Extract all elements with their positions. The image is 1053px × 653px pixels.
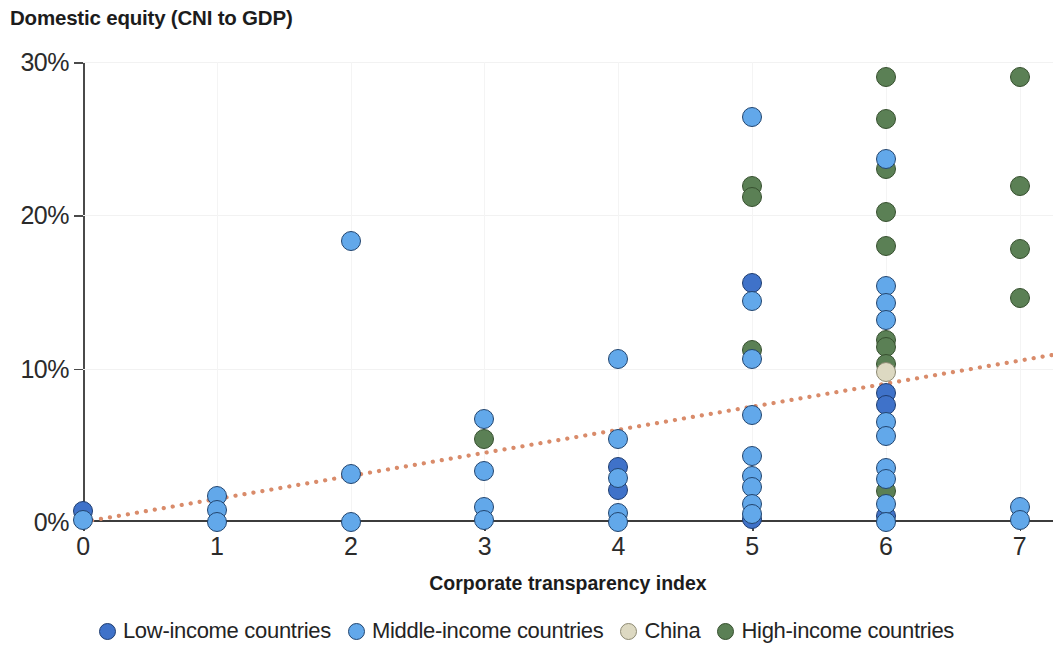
gridline-vertical bbox=[618, 62, 619, 522]
y-axis-line bbox=[83, 62, 85, 522]
legend-item-low[interactable]: Low-income countries bbox=[99, 618, 331, 644]
data-point bbox=[876, 67, 896, 87]
gridline-vertical bbox=[484, 62, 485, 522]
data-point bbox=[608, 468, 628, 488]
y-axis-tick bbox=[74, 369, 83, 371]
data-point bbox=[474, 409, 494, 429]
plot-area: 0%10%20%30%01234567 bbox=[83, 62, 1053, 522]
trend-line bbox=[83, 62, 1053, 522]
data-point bbox=[876, 469, 896, 489]
data-point bbox=[1010, 176, 1030, 196]
data-point bbox=[608, 349, 628, 369]
x-axis-label: 6 bbox=[879, 532, 892, 561]
data-point bbox=[876, 494, 896, 514]
legend-marker-icon bbox=[99, 623, 116, 640]
legend-label: China bbox=[644, 618, 700, 644]
data-point bbox=[742, 187, 762, 207]
y-axis-label: 20% bbox=[20, 201, 69, 230]
data-point bbox=[1010, 510, 1030, 530]
data-point bbox=[341, 464, 361, 484]
x-axis-label: 3 bbox=[478, 532, 491, 561]
data-point bbox=[876, 426, 896, 446]
legend-label: Middle-income countries bbox=[372, 618, 604, 644]
data-point bbox=[876, 362, 896, 382]
legend-item-middle[interactable]: Middle-income countries bbox=[348, 618, 604, 644]
x-axis-label: 0 bbox=[76, 532, 89, 561]
data-point bbox=[742, 273, 762, 293]
y-axis-tick bbox=[74, 62, 83, 64]
data-point bbox=[73, 510, 93, 530]
data-point bbox=[876, 109, 896, 129]
legend-marker-icon bbox=[348, 623, 365, 640]
y-axis-label: 30% bbox=[20, 48, 69, 77]
data-point bbox=[876, 310, 896, 330]
legend-label: High-income countries bbox=[741, 618, 954, 644]
data-point bbox=[474, 510, 494, 530]
chart-legend: Low-income countriesMiddle-income countr… bbox=[0, 618, 1053, 644]
data-point bbox=[876, 236, 896, 256]
x-axis-title: Corporate transparency index bbox=[83, 572, 1053, 595]
gridline-vertical bbox=[217, 62, 218, 522]
data-point bbox=[876, 202, 896, 222]
scatter-chart: Domestic equity (CNI to GDP) 0%10%20%30%… bbox=[0, 0, 1053, 653]
legend-marker-icon bbox=[620, 623, 637, 640]
data-point bbox=[1010, 239, 1030, 259]
data-point bbox=[876, 512, 896, 532]
data-point bbox=[341, 512, 361, 532]
data-point bbox=[742, 446, 762, 466]
x-axis-label: 5 bbox=[745, 532, 758, 561]
gridline-horizontal bbox=[83, 62, 1053, 63]
legend-label: Low-income countries bbox=[123, 618, 331, 644]
data-point bbox=[474, 461, 494, 481]
y-axis-tick bbox=[74, 215, 83, 217]
data-point bbox=[742, 349, 762, 369]
x-axis-label: 2 bbox=[344, 532, 357, 561]
x-axis-label: 1 bbox=[210, 532, 223, 561]
data-point bbox=[341, 231, 361, 251]
data-point bbox=[207, 512, 227, 532]
legend-item-china[interactable]: China bbox=[620, 618, 700, 644]
x-axis-label: 4 bbox=[611, 532, 624, 561]
y-axis-label: 0% bbox=[34, 508, 69, 537]
chart-title: Domestic equity (CNI to GDP) bbox=[10, 6, 293, 30]
data-point bbox=[608, 429, 628, 449]
data-point bbox=[742, 405, 762, 425]
legend-marker-icon bbox=[717, 623, 734, 640]
x-axis-label: 7 bbox=[1013, 532, 1026, 561]
gridline-horizontal bbox=[83, 215, 1053, 216]
x-axis-line bbox=[83, 520, 1053, 522]
data-point bbox=[742, 291, 762, 311]
legend-item-high[interactable]: High-income countries bbox=[717, 618, 954, 644]
data-point bbox=[1010, 67, 1030, 87]
data-point bbox=[608, 512, 628, 532]
data-point bbox=[1010, 288, 1030, 308]
data-point bbox=[742, 107, 762, 127]
y-axis-label: 10% bbox=[20, 354, 69, 383]
data-point bbox=[876, 149, 896, 169]
gridline-vertical bbox=[351, 62, 352, 522]
data-point bbox=[474, 429, 494, 449]
gridline-horizontal bbox=[83, 369, 1053, 370]
